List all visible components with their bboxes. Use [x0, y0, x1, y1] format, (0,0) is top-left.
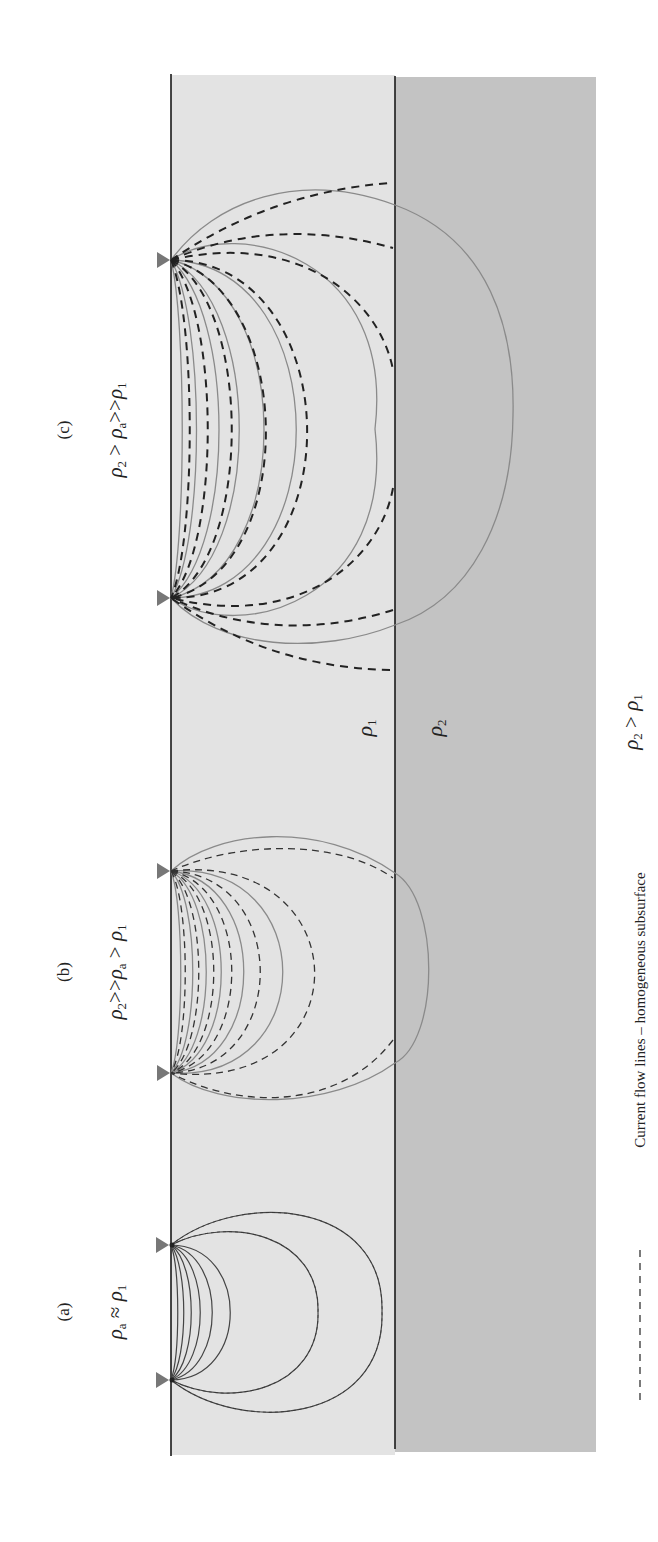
model-condition: ρ2 > ρ1 — [621, 694, 644, 750]
layer2-label: ρ2 — [424, 719, 448, 736]
diagram-canvas — [0, 0, 658, 1542]
legend-dashed-label: Current flow lines – homogeneous subsurf… — [633, 872, 648, 1147]
panel-c-condition: ρ2 > ρa>>ρ1 — [105, 382, 128, 477]
electrode-marker-icon — [157, 863, 170, 879]
electrode-marker-icon — [157, 252, 170, 268]
panel-b-label: (b) — [55, 962, 72, 982]
panel-a-condition: ρa ≈ ρ1 — [105, 1285, 128, 1340]
panel-b-condition: ρ2>>ρa > ρ1 — [105, 924, 128, 1019]
electrode-marker-icon — [157, 1065, 170, 1081]
panel-a-label: (a) — [55, 1303, 72, 1322]
layer1-label: ρ1 — [354, 719, 378, 736]
layer2-region — [395, 77, 596, 1452]
resistivity-current-flow-diagram: (c) ρ2 > ρa>>ρ1 (b) ρ2>>ρa > ρ1 (a) ρa ≈… — [0, 0, 658, 1542]
electrode-marker-icon — [156, 1237, 169, 1253]
panel-c-label: (c) — [55, 421, 72, 440]
electrode-marker-icon — [157, 590, 170, 606]
electrode-marker-icon — [156, 1372, 169, 1388]
